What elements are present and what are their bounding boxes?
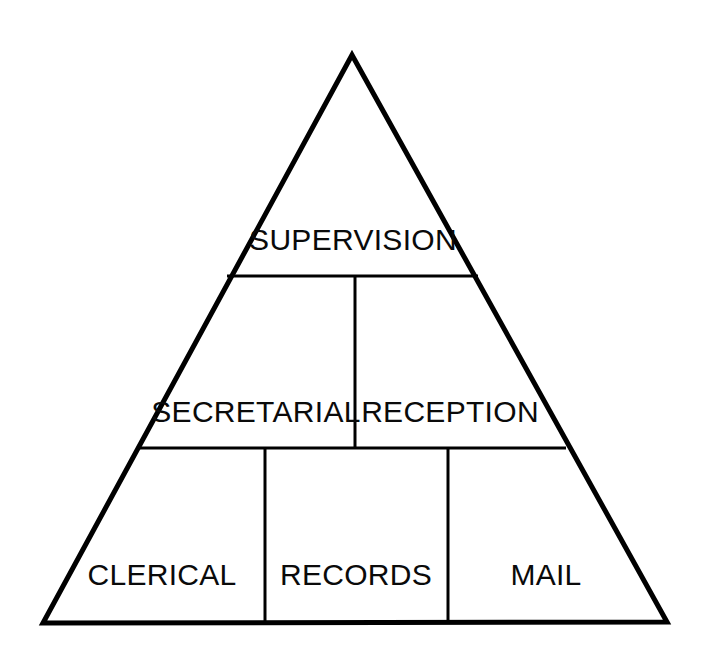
pyramid-cell-label-reception: RECEPTION bbox=[361, 395, 539, 428]
pyramid-diagram: SUPERVISION SECRETARIAL RECEPTION CLERIC… bbox=[0, 0, 711, 663]
pyramid-cell-label-mail: MAIL bbox=[510, 558, 581, 591]
pyramid-diagram-canvas: SUPERVISION SECRETARIAL RECEPTION CLERIC… bbox=[0, 0, 711, 663]
pyramid-cell-label-secretarial: SECRETARIAL bbox=[151, 395, 360, 428]
pyramid-cell-label-clerical: CLERICAL bbox=[87, 558, 236, 591]
pyramid-cell-label-supervision: SUPERVISION bbox=[249, 223, 457, 256]
pyramid-cell-label-records: RECORDS bbox=[280, 558, 432, 591]
